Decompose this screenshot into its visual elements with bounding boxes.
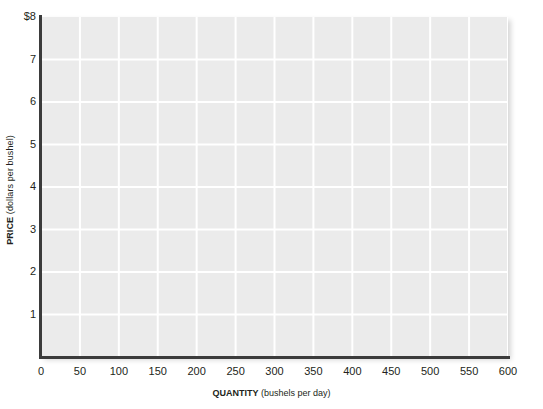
x-axis-title-name: QUANTITY [212, 388, 258, 398]
x-axis-title-units: (bushels per day) [261, 388, 331, 398]
x-axis-tick-label: 0 [38, 366, 44, 377]
y-axis-tick-label: 6 [2, 96, 36, 107]
price-quantity-blank-graph: 1234567$8 050100150200250300350400450500… [0, 0, 543, 409]
x-axis-tick-label: 250 [226, 366, 244, 377]
x-axis-tick-label: 200 [187, 366, 205, 377]
x-axis-tick-label: 450 [382, 366, 400, 377]
plot-area [41, 17, 508, 357]
x-axis-tick-label: 600 [499, 366, 517, 377]
x-axis-tick-label: 550 [460, 366, 478, 377]
y-axis-tick-label: $8 [2, 11, 36, 22]
x-axis-tick-label: 100 [110, 366, 128, 377]
x-axis-tick-label: 500 [421, 366, 439, 377]
y-axis-title-name: PRICE [5, 217, 15, 245]
x-axis-tick-label: 300 [265, 366, 283, 377]
x-axis-line [39, 356, 510, 359]
y-axis-tick-label: 1 [2, 309, 36, 320]
y-axis-title: PRICE (dollars per bushel) [2, 125, 18, 255]
x-axis-tick-label: 400 [343, 366, 361, 377]
x-axis-title: QUANTITY (bushels per day) [0, 388, 543, 398]
y-axis-line [39, 15, 42, 359]
x-axis-tick-label: 350 [304, 366, 322, 377]
gridlines [41, 17, 508, 357]
x-axis-tick-label: 50 [74, 366, 86, 377]
y-axis-tick-label: 2 [2, 266, 36, 277]
x-axis-tick-label: 150 [149, 366, 167, 377]
y-axis-title-units: (dollars per bushel) [5, 135, 15, 214]
x-axis-tick-labels: 050100150200250300350400450500550600 [0, 366, 543, 382]
y-axis-tick-label: 7 [2, 54, 36, 65]
